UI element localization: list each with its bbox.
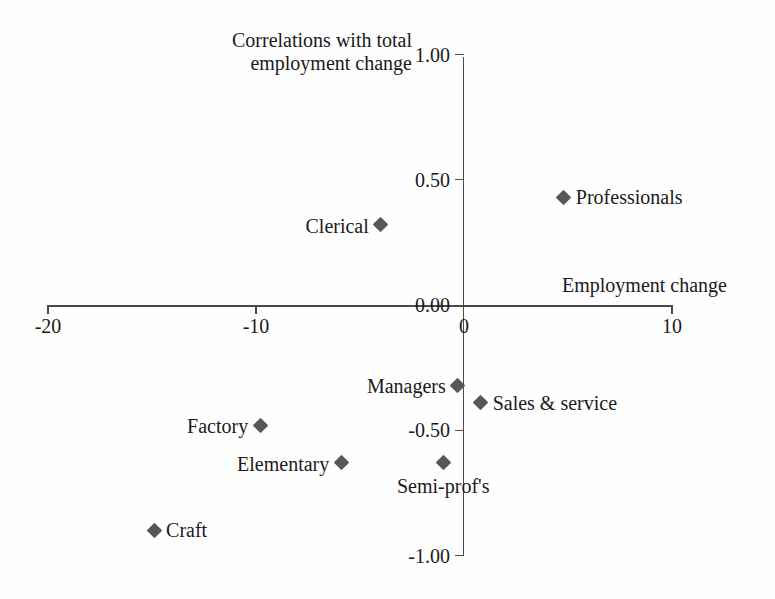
- x-axis-title: Employment change: [562, 274, 727, 297]
- diamond-marker-icon: [252, 417, 268, 433]
- data-point-label: Craft: [166, 520, 207, 540]
- data-point-label: Managers: [367, 376, 446, 396]
- diamond-marker-icon: [333, 455, 349, 471]
- x-tick-label: -10: [243, 316, 270, 336]
- y-tick-mark: [455, 179, 464, 180]
- data-point-label: Semi-prof's: [397, 476, 489, 496]
- x-tick-label: 10: [662, 316, 682, 336]
- data-point-label: Clerical: [305, 216, 368, 236]
- y-axis-title-line1: Correlations with total: [232, 29, 412, 51]
- diamond-marker-icon: [435, 455, 451, 471]
- x-tick-label: 0: [459, 316, 469, 336]
- scatter-chart: -20-100101.000.500.00-0.50-1.00 Correlat…: [0, 0, 775, 599]
- diamond-marker-icon: [473, 395, 489, 411]
- y-axis-title: Correlations with total employment chang…: [199, 29, 412, 75]
- y-tick-label: 0.00: [340, 295, 450, 315]
- x-tick-label: -20: [35, 316, 62, 336]
- y-tick-label: -1.00: [340, 546, 450, 566]
- data-point-label: Factory: [187, 416, 248, 436]
- diamond-marker-icon: [373, 217, 389, 233]
- data-point-label: Professionals: [576, 187, 683, 207]
- diamond-marker-icon: [146, 523, 162, 539]
- y-tick-label: 0.50: [340, 170, 450, 190]
- x-tick-mark: [671, 305, 672, 314]
- y-tick-mark: [455, 430, 464, 431]
- x-tick-mark: [255, 305, 256, 314]
- y-tick-mark: [455, 555, 464, 556]
- x-tick-mark: [47, 305, 48, 314]
- data-point-label: Sales & service: [493, 393, 617, 413]
- data-point-label: Elementary: [237, 454, 329, 474]
- y-axis-title-line2: employment change: [250, 52, 412, 74]
- diamond-marker-icon: [556, 190, 572, 206]
- y-tick-label: -0.50: [340, 420, 450, 440]
- y-tick-mark: [455, 54, 464, 55]
